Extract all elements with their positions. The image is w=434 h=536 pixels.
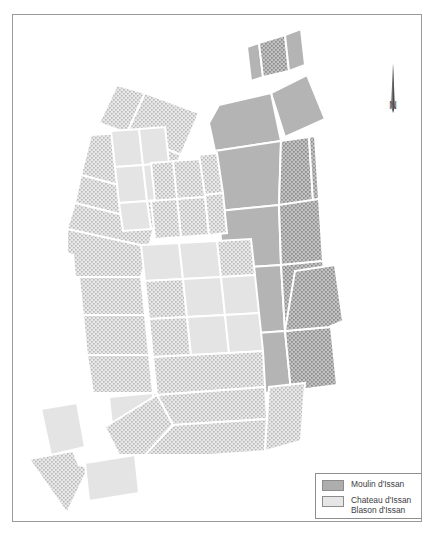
map-frame: N Moulin d'Issan Chateau d'Issan Blason … bbox=[12, 14, 422, 522]
parcel-canvas bbox=[13, 15, 421, 521]
parcel bbox=[41, 403, 85, 455]
parcel bbox=[179, 241, 221, 279]
parcel bbox=[215, 141, 281, 211]
parcel bbox=[83, 315, 149, 355]
parcel bbox=[285, 265, 343, 331]
parcel bbox=[177, 197, 209, 237]
parcel bbox=[151, 199, 181, 239]
parcel bbox=[265, 383, 305, 451]
parcel bbox=[187, 315, 229, 355]
parcel bbox=[279, 199, 323, 265]
parcel bbox=[285, 29, 305, 71]
parcel bbox=[279, 137, 313, 205]
legend-item-moulin: Moulin d'Issan bbox=[322, 479, 416, 491]
parcel bbox=[115, 165, 147, 203]
legend-label-chateau-line2: Blason d'Issan bbox=[351, 505, 411, 515]
legend-label-chateau-line1: Chateau d'Issan bbox=[351, 495, 411, 505]
parcel bbox=[145, 279, 187, 319]
parcel bbox=[149, 317, 191, 357]
legend-item-chateau: Chateau d'Issan Blason d'Issan bbox=[322, 495, 416, 515]
parcel bbox=[285, 327, 337, 391]
parcel bbox=[183, 277, 225, 317]
map-screenshot: N Moulin d'Issan Chateau d'Issan Blason … bbox=[0, 0, 434, 536]
parcel bbox=[119, 201, 151, 231]
map-legend: Moulin d'Issan Chateau d'Issan Blason d'… bbox=[315, 473, 422, 519]
parcel bbox=[221, 275, 259, 315]
parcel bbox=[85, 455, 139, 501]
legend-swatch-moulin bbox=[322, 480, 344, 491]
legend-label-chateau: Chateau d'Issan Blason d'Issan bbox=[351, 495, 411, 515]
parcel bbox=[141, 243, 183, 281]
parcel bbox=[79, 277, 145, 315]
legend-label-moulin: Moulin d'Issan bbox=[351, 479, 404, 489]
parcel bbox=[111, 129, 143, 167]
north-label: N bbox=[373, 99, 413, 111]
parcel bbox=[259, 35, 289, 77]
parcel bbox=[87, 355, 153, 393]
legend-swatch-chateau bbox=[322, 496, 344, 507]
parcel bbox=[217, 239, 255, 277]
parcel bbox=[205, 193, 227, 235]
parcel bbox=[29, 451, 89, 513]
parcel bbox=[139, 127, 169, 165]
parcel bbox=[225, 313, 263, 353]
